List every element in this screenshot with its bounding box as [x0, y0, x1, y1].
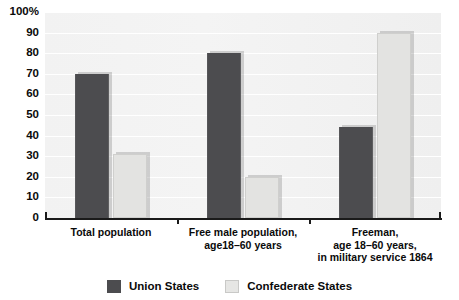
y-axis-tick-label: 30 — [26, 150, 39, 161]
category-label-line: Total population — [39, 226, 183, 239]
category-label-line: in military service 1864 — [303, 251, 447, 264]
bar-union-group-3 — [339, 127, 373, 218]
legend-label: Union States — [129, 280, 199, 292]
chart-legend: Union StatesConfederate States — [0, 276, 459, 296]
bar-chart: 100%9080706050403020100 Total population… — [0, 0, 459, 300]
y-axis-tick-label: 100% — [10, 6, 39, 17]
x-axis-tick — [309, 218, 311, 224]
y-axis-tick-label: 50 — [26, 109, 39, 120]
bar-confederate-group-1 — [113, 154, 147, 218]
legend-item-union[interactable]: Union States — [107, 280, 199, 293]
chart-title-cropped — [0, 0, 459, 7]
legend-swatch-icon — [225, 280, 239, 293]
legend-swatch-icon — [107, 280, 121, 293]
category-label-line: Freeman, — [303, 226, 447, 239]
y-axis-tick-label: 90 — [26, 27, 39, 38]
category-label-3: Freeman,age 18–60 years,in military serv… — [303, 226, 447, 264]
y-axis-tick-label: 0 — [33, 212, 39, 223]
x-axis-tick — [439, 212, 441, 220]
category-label-line: age18–60 years — [171, 239, 315, 252]
bar-confederate-group-3 — [377, 33, 411, 218]
category-label-1: Total population — [39, 226, 183, 239]
legend-label: Confederate States — [247, 280, 352, 292]
y-axis-tick-label: 80 — [26, 47, 39, 58]
x-axis-line — [45, 218, 442, 220]
category-label-line: Free male population, — [171, 226, 315, 239]
category-labels: Total populationFree male population,age… — [45, 226, 442, 272]
category-label-line: age 18–60 years, — [303, 239, 447, 252]
y-axis-tick-label: 70 — [26, 68, 39, 79]
plot-area — [45, 12, 441, 218]
bar-union-group-2 — [207, 53, 241, 218]
y-axis-tick-label: 20 — [26, 171, 39, 182]
y-axis-tick-label: 10 — [26, 191, 39, 202]
y-axis-tick-label: 40 — [26, 130, 39, 141]
bar-union-group-1 — [75, 74, 109, 218]
y-axis: 100%9080706050403020100 — [0, 0, 44, 230]
gridline — [45, 12, 441, 13]
legend-item-confederate[interactable]: Confederate States — [225, 280, 352, 293]
x-axis-tick — [45, 212, 47, 220]
bar-confederate-group-2 — [245, 177, 279, 218]
y-axis-tick-label: 60 — [26, 88, 39, 99]
category-label-2: Free male population,age18–60 years — [171, 226, 315, 251]
x-axis-tick — [177, 218, 179, 224]
